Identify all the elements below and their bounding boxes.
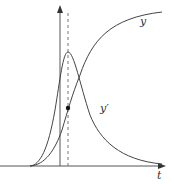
y-curve [30, 12, 162, 166]
logistic-growth-diagram: y y′ t [0, 0, 174, 184]
y-curve-label: y [140, 16, 146, 27]
inflection-point [66, 106, 70, 110]
y-prime-curve-label: y′ [100, 103, 109, 114]
t-axis-label: t [157, 170, 161, 181]
vertical-axis-arrow-icon [57, 5, 63, 13]
y-prime-curve [30, 52, 162, 166]
diagram-svg [0, 0, 174, 184]
